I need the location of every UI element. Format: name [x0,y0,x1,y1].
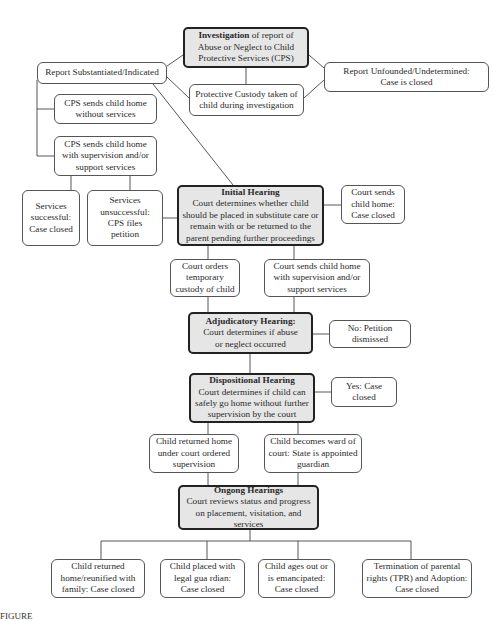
dispositional-hearing-node: Dispositional Hearing Court determines i… [189,373,315,423]
protective-custody-node: Protective Custody taken of child during… [189,84,304,116]
services-successful-node: Services successful: Case closed [22,190,80,246]
court-sends-home-closed-node: Court sends child home: Case closed [341,185,405,224]
petition-dismissed-text: No: Petition dismissed [333,323,407,346]
substantiated-text: Report Substantiated/Indicated [45,67,159,78]
legal-guardian-node: Child placed with legal gua rdian: Case … [160,559,245,598]
protective-custody-text: Protective Custody taken of child during… [193,89,300,112]
child-ward-of-court-node: Child becomes ward of court: State is ap… [264,434,362,473]
cps-with-supervision-node: CPS sends child home with supervision an… [54,136,157,176]
ongoing-hearings-text: Court reviews status and progress on pla… [183,496,314,530]
ongoing-hearings-title: Ongong Hearings [214,485,283,496]
substantiated-node: Report Substantiated/Indicated [37,62,167,84]
court-temp-custody-node: Court orders temporary custody of child [170,259,240,297]
services-unsuccessful-node: Services unsuccessful: CPS files petitio… [87,190,163,246]
adjudicatory-hearing-text: Court determines if abuse or neglect occ… [193,327,308,350]
yes-case-closed-node: Yes: Case closed [331,377,397,407]
child-returned-supervision-node: Child returned home under court ordered … [149,434,239,473]
court-temp-custody-text: Court orders temporary custody of child [174,261,236,295]
unfounded-node: Report Unfounded/Undetermined: Case is c… [324,62,489,92]
investigation-title: Investigation [198,30,249,40]
dispositional-hearing-text: Court determines if child can safely go … [194,387,310,421]
yes-case-closed-text: Yes: Case closed [335,381,393,404]
ongoing-hearings-node: Ongong Hearings Court reviews status and… [178,485,319,530]
initial-hearing-node: Initial Hearing Court determines whether… [177,185,324,246]
petition-dismissed-node: No: Petition dismissed [329,320,411,348]
reunified-node: Child returned home/reunified with famil… [51,559,145,598]
adjudicatory-hearing-title: Adjudicatory Hearing: [205,316,295,327]
child-ward-of-court-text: Child becomes ward of court: State is ap… [268,436,358,470]
initial-hearing-text: Court determines whether child should be… [182,198,319,244]
dispositional-hearing-title: Dispositional Hearing [209,375,295,386]
cps-without-services-text: CPS sends child home without services [58,98,153,121]
investigation-node: Investigation of report of Abuse or Negl… [183,27,309,68]
services-successful-text: Services successful: Case closed [26,201,76,235]
tpr-adoption-text: Termination of parental rights (TPR) and… [366,561,468,595]
legal-guardian-text: Child placed with legal gua rdian: Case … [164,561,241,595]
tpr-adoption-node: Termination of parental rights (TPR) and… [362,559,472,598]
figure-caption: FIGURE [0,611,33,621]
court-home-supervision-node: Court sends child home with supervision … [264,259,370,297]
services-unsuccessful-text: Services unsuccessful: CPS files petitio… [91,195,159,241]
court-home-supervision-text: Court sends child home with supervision … [268,261,366,295]
court-sends-home-closed-text: Court sends child home: Case closed [345,187,401,221]
adjudicatory-hearing-node: Adjudicatory Hearing: Court determines i… [188,312,313,354]
cps-with-supervision-text: CPS sends child home with supervision an… [58,139,153,173]
emancipated-node: Child ages out or is emancipated: Case c… [258,559,335,598]
emancipated-text: Child ages out or is emancipated: Case c… [262,561,331,595]
unfounded-text: Report Unfounded/Undetermined: Case is c… [328,66,485,89]
child-returned-supervision-text: Child returned home under court ordered … [153,436,235,470]
cps-without-services-node: CPS sends child home without services [54,94,157,124]
initial-hearing-title: Initial Hearing [221,187,279,198]
reunified-text: Child returned home/reunified with famil… [55,561,141,595]
